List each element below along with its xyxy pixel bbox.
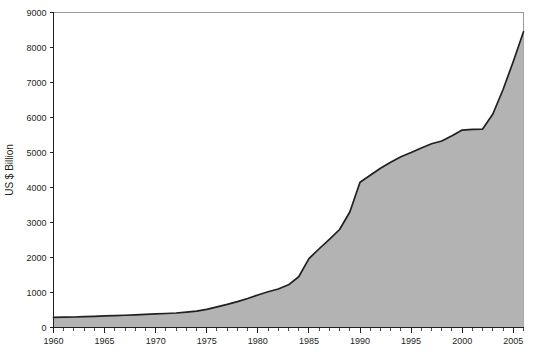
y-tick-label: 7000: [26, 78, 46, 88]
y-tick-label: 1000: [26, 288, 46, 298]
y-tick-label: 0: [41, 323, 46, 333]
chart-container: 0100020003000400050006000700080009000 19…: [0, 0, 533, 352]
x-tick-label: 1985: [299, 336, 319, 346]
x-tick-label: 1970: [146, 336, 166, 346]
x-tick-label: 1990: [350, 336, 370, 346]
y-axis-title: US $ Billion: [4, 144, 15, 196]
y-tick-label: 8000: [26, 43, 46, 53]
x-tick-label: 2000: [452, 336, 472, 346]
x-tick-label: 1995: [401, 336, 421, 346]
y-tick-label: 3000: [26, 218, 46, 228]
y-tick-label: 6000: [26, 113, 46, 123]
y-tick-label: 2000: [26, 253, 46, 263]
area-chart: 0100020003000400050006000700080009000 19…: [0, 0, 533, 352]
x-tick-label: 1960: [43, 336, 63, 346]
x-tick-label: 1975: [197, 336, 217, 346]
x-tick-label: 1965: [95, 336, 115, 346]
y-tick-label: 4000: [26, 183, 46, 193]
x-tick-label: 1980: [248, 336, 268, 346]
x-tick-label: 2005: [503, 336, 523, 346]
y-tick-label: 9000: [26, 8, 46, 18]
y-tick-label: 5000: [26, 148, 46, 158]
